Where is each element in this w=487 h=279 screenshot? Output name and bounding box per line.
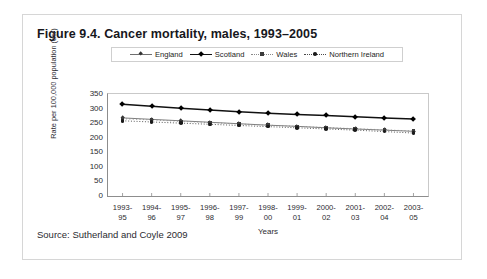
y-tick-label: 200 bbox=[77, 134, 103, 142]
data-point-marker bbox=[179, 121, 183, 125]
y-axis-title: Rate per 100,000 population (dsr) bbox=[49, 26, 58, 142]
y-axis-tick-labels: 050100150200250300350 bbox=[75, 93, 103, 197]
legend-label-wales: Wales bbox=[276, 50, 297, 59]
y-tick-label: 50 bbox=[77, 177, 103, 185]
data-point-marker bbox=[353, 128, 357, 132]
data-point-marker bbox=[295, 126, 299, 130]
x-tick-label: 2003-05 bbox=[396, 203, 430, 222]
y-tick-label: 250 bbox=[77, 119, 103, 127]
figure-card: Figure 9.4. Cancer mortality, males, 199… bbox=[22, 14, 462, 260]
legend-entry-northern-ireland[interactable]: Northern Ireland bbox=[304, 50, 384, 59]
y-tick-label: 100 bbox=[77, 163, 103, 171]
chart-area: EnglandScotlandWalesNorthern Ireland Rat… bbox=[31, 45, 455, 225]
legend-label-england: England bbox=[155, 50, 183, 59]
legend-marker-icon bbox=[199, 52, 203, 56]
figure-title: Figure 9.4. Cancer mortality, males, 199… bbox=[37, 27, 317, 41]
data-point-marker bbox=[237, 124, 241, 128]
y-tick-label: 0 bbox=[77, 192, 103, 200]
data-point-marker bbox=[208, 123, 212, 127]
legend-label-northern-ireland: Northern Ireland bbox=[329, 50, 384, 59]
plot-area bbox=[107, 93, 429, 197]
legend-entry-scotland[interactable]: Scotland bbox=[190, 50, 245, 59]
legend-entry-england[interactable]: England bbox=[130, 50, 183, 59]
legend-marker-icon bbox=[313, 52, 317, 56]
data-point-marker bbox=[324, 127, 328, 131]
data-point-marker bbox=[121, 119, 125, 123]
chart-legend: EnglandScotlandWalesNorthern Ireland bbox=[111, 47, 403, 62]
legend-key-wales bbox=[251, 50, 273, 59]
legend-key-scotland bbox=[190, 50, 212, 59]
data-point-marker bbox=[412, 131, 416, 135]
y-tick-label: 350 bbox=[77, 90, 103, 98]
y-tick-label: 150 bbox=[77, 148, 103, 156]
y-tick-label: 300 bbox=[77, 105, 103, 113]
legend-marker-icon bbox=[260, 52, 264, 56]
figure-source: Source: Sutherland and Coyle 2009 bbox=[37, 229, 188, 240]
legend-key-northern-ireland bbox=[304, 50, 326, 59]
legend-marker-icon bbox=[139, 52, 142, 55]
x-axis-tick-labels: 1993-951994-961995-971996-981997-991998-… bbox=[107, 201, 429, 225]
legend-key-england bbox=[130, 50, 152, 59]
legend-label-scotland: Scotland bbox=[215, 50, 245, 59]
legend-entry-wales[interactable]: Wales bbox=[251, 50, 297, 59]
